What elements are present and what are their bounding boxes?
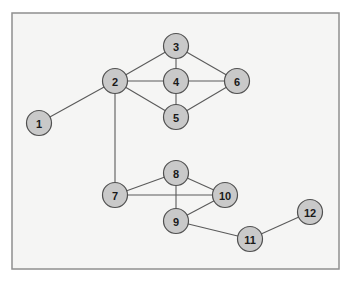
node-12: 12 [298, 200, 323, 225]
node-label: 9 [173, 216, 179, 228]
node-2: 2 [103, 69, 128, 94]
node-3: 3 [164, 34, 189, 59]
node-9: 9 [164, 209, 189, 234]
node-label: 1 [36, 118, 42, 130]
node-6: 6 [225, 69, 250, 94]
node-label: 7 [112, 190, 118, 202]
node-label: 11 [244, 234, 256, 246]
node-7: 7 [103, 183, 128, 208]
node-label: 8 [173, 168, 179, 180]
node-8: 8 [164, 161, 189, 186]
node-label: 3 [173, 41, 179, 53]
node-label: 6 [234, 76, 240, 88]
node-5: 5 [164, 105, 189, 130]
graph-diagram: 123456789101112 [0, 0, 347, 286]
node-1: 1 [27, 111, 52, 136]
node-10: 10 [213, 183, 238, 208]
node-label: 12 [304, 207, 316, 219]
node-4: 4 [164, 69, 189, 94]
node-label: 4 [173, 76, 180, 88]
node-label: 5 [173, 112, 179, 124]
node-label: 2 [112, 76, 118, 88]
node-11: 11 [238, 227, 263, 252]
node-label: 10 [219, 190, 231, 202]
